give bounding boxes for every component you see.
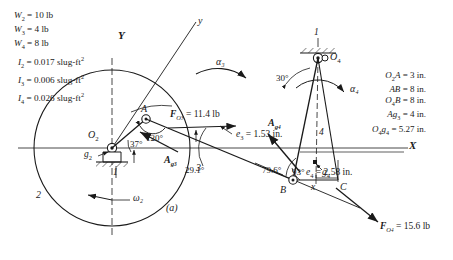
dimension-row: Ag3 = 4 in. [372, 109, 426, 123]
O4-pivot-second [322, 55, 328, 61]
angle-79: 79.6° [262, 166, 281, 175]
property-value: 0.006 slug-ft [34, 75, 81, 85]
alpha3-arc [196, 68, 246, 78]
mechanism-figure: W2 = 10 lb W3 = 4 lb W4 = 8 lb I2 = 0.01… [0, 0, 453, 260]
dimension-row: AB = 8 in. [372, 84, 426, 95]
point-label-O4: O4 [330, 52, 341, 65]
property-row: W3 = 4 lb [14, 24, 84, 38]
property-value: 8 lb [35, 38, 49, 48]
B-pivot-center [292, 179, 295, 182]
O2-ground-block [103, 152, 121, 162]
dimension-value: 8 in. [410, 95, 426, 105]
property-row: W2 = 10 lb [14, 10, 84, 24]
property-value: 0.026 slug-ft [34, 93, 81, 103]
X-axis-label: X [409, 140, 416, 151]
omega2-label: ω₂ [133, 194, 143, 204]
dimension-value: 4 in. [410, 109, 426, 119]
O2-ground-hatch [96, 162, 128, 167]
point-label-B: B [280, 185, 286, 195]
dimension-row: O2A = 3 in. [372, 70, 426, 84]
e3-label: e3 = 1.53 in. [236, 130, 282, 141]
point-label-O2: O2 [88, 130, 99, 143]
body-properties-list: W2 = 10 lb W3 = 4 lb W4 = 8 lb I2 = 0.01… [14, 10, 84, 108]
angle29-arc [199, 128, 206, 166]
e4-value: = 2.58 in. [316, 167, 353, 177]
point-label-C: C [340, 182, 347, 192]
e3-value: = 1.53 in. [246, 129, 283, 139]
property-row: I2 = 0.017 slug-ft2 [14, 53, 84, 71]
Y-axis-label: Y [118, 30, 125, 41]
alpha4-arc [296, 80, 344, 92]
link-number-ground-right: 1 [314, 28, 319, 38]
FO4-label: FO4 = 15.6 lb [380, 222, 430, 233]
point-label-g2: g2 [84, 150, 92, 161]
angle-30: 30° [276, 74, 289, 83]
property-row: I3 = 0.006 slug-ft2 [14, 71, 84, 89]
angle-120: 120° [146, 134, 163, 143]
link-dimensions-list: O2A = 3 in. AB = 8 in. O4B = 8 in. Ag3 =… [372, 70, 426, 138]
property-value: 10 lb [35, 10, 54, 20]
FO3-value: = 11.4 lb [186, 109, 220, 119]
FO3-vector [168, 126, 236, 128]
g4-marker [313, 160, 317, 164]
angle-37: 37° [130, 140, 143, 149]
FO3-label: FO3 = 11.4 lb [170, 110, 220, 121]
angle-93: 93° [292, 168, 305, 177]
link-number-4: 4 [319, 128, 324, 138]
dimension-value: 3 in. [410, 70, 426, 80]
dimension-value: 5.27 in. [399, 124, 426, 134]
property-row: W4 = 8 lb [14, 38, 84, 52]
alpha3-label: α₃ [216, 57, 225, 67]
e4-label: e4 = 2.58 in. [306, 168, 352, 179]
property-value: 4 lb [35, 24, 49, 34]
Ag3-label: Ag3 [164, 155, 177, 168]
FO4-vector [336, 188, 378, 222]
property-row: I4 = 0.026 slug-ft2 [14, 89, 84, 107]
property-value: 0.017 slug-ft [34, 57, 81, 67]
omega2-arrow [88, 195, 112, 200]
e3-pointer [220, 126, 232, 134]
dimension-value: 8 in. [410, 84, 426, 94]
link4-O4C [318, 58, 338, 180]
alpha4-label: α₄ [350, 84, 359, 94]
x-axis-local-label: x [311, 183, 315, 193]
dimension-row: O4g4 = 5.27 in. [372, 124, 426, 138]
dimension-row: O4B = 8 in. [372, 95, 426, 109]
link-number-2: 2 [36, 190, 41, 200]
y-axis-rotating-label: y [198, 16, 202, 26]
angle-29: 29.1° [185, 166, 204, 175]
figure-caption: (a) [166, 203, 178, 213]
link-number-ground-left: 1 [113, 168, 118, 178]
point-label-A: A [141, 104, 147, 114]
FO4-value: = 15.6 lb [396, 221, 430, 231]
